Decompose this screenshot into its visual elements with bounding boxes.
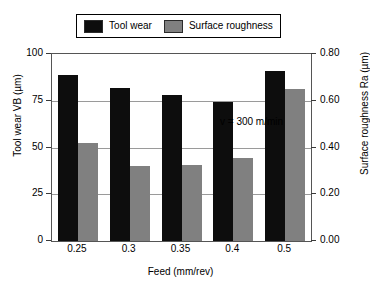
chart-annotation: v = 300 m/min xyxy=(220,116,283,127)
y-axis-right-tick-mark xyxy=(311,53,316,54)
x-axis-tick-label: 0.5 xyxy=(277,244,291,254)
legend-swatch-tool-wear xyxy=(84,20,103,33)
y-axis-left-tick-label: 25 xyxy=(32,188,43,198)
y-axis-left-tick-mark xyxy=(46,147,51,148)
legend-swatch-surface-roughness xyxy=(164,20,183,33)
x-axis: 0.250.30.350.40.5 xyxy=(51,242,310,258)
y-axis-left-tick-label: 0 xyxy=(37,235,43,245)
bar-tool-wear-0.25 xyxy=(58,75,78,241)
legend-label-tool-wear: Tool wear xyxy=(109,21,152,31)
y-axis-left-tick-label: 100 xyxy=(26,48,43,58)
x-axis-tick-label: 0.25 xyxy=(67,244,86,254)
y-axis-right-tick-label: 0.00 xyxy=(320,235,339,245)
y-axis-right-tick-mark xyxy=(311,100,316,101)
x-axis-tick-label: 0.4 xyxy=(225,244,239,254)
bar-tool-wear-0.35 xyxy=(162,95,182,241)
legend-entry-tool-wear: Tool wear xyxy=(84,20,152,33)
y-axis-right-tick-mark xyxy=(311,147,316,148)
y-axis-left-tick-mark xyxy=(46,100,51,101)
bars-layer xyxy=(52,54,311,241)
bar-surface-roughness-0.3 xyxy=(130,166,150,241)
bar-tool-wear-0.3 xyxy=(110,88,130,241)
plot-area: v = 300 m/min xyxy=(51,53,312,242)
y-axis-left: 0255075100 xyxy=(0,53,51,240)
x-axis-tick-label: 0.3 xyxy=(122,244,136,254)
bar-tool-wear-0.5 xyxy=(265,71,285,241)
legend-entry-surface-roughness: Surface roughness xyxy=(164,20,273,33)
bar-surface-roughness-0.35 xyxy=(182,165,202,241)
x-axis-title: Feed (mm/rev) xyxy=(51,266,310,277)
y-axis-right-tick-label: 0.80 xyxy=(320,48,339,58)
chart-legend: Tool wear Surface roughness xyxy=(76,14,281,38)
y-axis-left-tick-label: 75 xyxy=(32,95,43,105)
bar-surface-roughness-0.25 xyxy=(78,143,98,241)
legend-label-surface-roughness: Surface roughness xyxy=(189,21,273,31)
x-axis-tick-label: 0.35 xyxy=(171,244,190,254)
y-axis-right-tick-label: 0.20 xyxy=(320,188,339,198)
y-axis-right-title: Surface roughness Ra (µm) xyxy=(359,21,370,206)
bar-surface-roughness-0.5 xyxy=(285,89,305,241)
y-axis-right-tick-label: 0.60 xyxy=(320,95,339,105)
y-axis-right-tick-label: 0.40 xyxy=(320,142,339,152)
y-axis-right-tick-mark xyxy=(311,240,316,241)
y-axis-right-tick-mark xyxy=(311,193,316,194)
y-axis-left-tick-mark xyxy=(46,240,51,241)
y-axis-left-title: Tool wear VB (µm) xyxy=(12,41,23,191)
y-axis-left-tick-mark xyxy=(46,193,51,194)
bar-surface-roughness-0.4 xyxy=(233,158,253,241)
y-axis-left-tick-mark xyxy=(46,53,51,54)
y-axis-left-tick-label: 50 xyxy=(32,142,43,152)
